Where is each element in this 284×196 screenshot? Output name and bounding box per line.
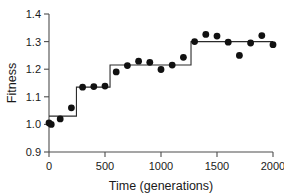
axes-group (49, 14, 273, 152)
y-tick-label: 1.2 (26, 63, 41, 75)
data-point (146, 59, 153, 66)
data-point (158, 66, 165, 73)
fitness-vs-time-chart: 0.91.01.11.21.31.4 0500100015002000 Time… (0, 0, 284, 196)
data-point (135, 58, 142, 65)
data-point (225, 39, 232, 46)
data-point (57, 115, 64, 122)
data-point (236, 52, 243, 59)
data-point (191, 38, 198, 45)
y-tick-label: 0.9 (26, 146, 41, 158)
x-tick-label: 0 (46, 160, 52, 172)
data-point (48, 121, 55, 128)
y-tick-group: 0.91.01.11.21.31.4 (26, 8, 49, 158)
x-tick-label: 1500 (205, 160, 229, 172)
data-point (124, 62, 131, 69)
data-point (258, 32, 265, 39)
y-tick-label: 1.1 (26, 91, 41, 103)
data-point (270, 41, 277, 48)
data-point (68, 104, 75, 111)
x-tick-group: 0500100015002000 (46, 152, 284, 172)
data-point (79, 84, 86, 91)
y-axis-title: Fitness (5, 63, 19, 103)
y-tick-label: 1.3 (26, 36, 41, 48)
data-point (102, 83, 109, 90)
data-points-group (46, 31, 277, 128)
x-tick-label: 500 (96, 160, 114, 172)
data-point (90, 83, 97, 90)
chart-canvas: 0.91.01.11.21.31.4 0500100015002000 Time… (0, 0, 284, 196)
x-tick-label: 2000 (261, 160, 284, 172)
data-point (247, 40, 254, 47)
data-point (214, 33, 221, 40)
data-point (113, 69, 120, 76)
data-point (169, 62, 176, 69)
y-tick-label: 1.4 (26, 8, 41, 20)
data-point (202, 31, 209, 38)
y-tick-label: 1.0 (26, 118, 41, 130)
x-axis-title: Time (generations) (109, 179, 213, 193)
x-tick-label: 1000 (149, 160, 173, 172)
data-point (180, 54, 187, 61)
